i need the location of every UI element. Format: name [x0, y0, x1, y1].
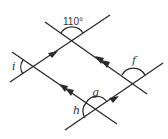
arrow-icon [109, 96, 119, 103]
angle-label-f: f [131, 54, 138, 67]
angle-label-g: g [92, 86, 99, 99]
double-arrow-icon [65, 88, 74, 96]
angle-label-110: 110° [63, 16, 83, 27]
angle-arc-i [21, 60, 23, 74]
parallel-lines-diagram: 110° i f g h [0, 0, 168, 139]
arrow-icon [48, 51, 58, 58]
angle-arc-f [122, 68, 145, 75]
parallel-line-upper [10, 15, 110, 82]
double-arrow-icon [59, 84, 68, 92]
angle-label-h: h [73, 104, 80, 117]
angle-label-i: i [12, 60, 16, 73]
angle-arc-110 [61, 27, 83, 33]
parallel-line-lower [65, 63, 163, 130]
